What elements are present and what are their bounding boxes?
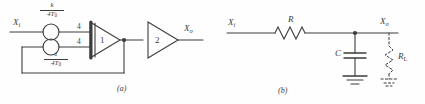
resistor-label: R: [288, 15, 294, 24]
panel-a-caption: (a): [117, 84, 126, 93]
panel-b-output-label: Xo: [380, 17, 389, 27]
summer-input-bottom-label: 4: [77, 37, 81, 46]
resistor-RL: [385, 46, 393, 74]
figure-root: Xi k 4T0 1 4T0 4 4 1 2 Xo (a): [0, 0, 425, 104]
resistor-R: [275, 27, 305, 39]
amplifier-2-triangle: [148, 22, 178, 58]
panel-b-input-label: Xi: [228, 18, 235, 28]
panel-a-input-label: Xi: [13, 18, 20, 28]
load-resistor-label: RL: [398, 52, 407, 62]
amplifier-1-gain-label: 1: [100, 35, 105, 45]
panel-a-output-label: Xo: [184, 24, 193, 34]
summer-input-top-label: 4: [77, 22, 81, 31]
panel-b-caption: (b): [278, 86, 287, 95]
gain-top-label: k 4T0: [40, 2, 64, 19]
gain-bottom-label: 1 4T0: [44, 51, 68, 68]
gain-circle-top: [43, 24, 59, 40]
amplifier-2-gain-label: 2: [155, 35, 160, 45]
capacitor-label: C: [335, 49, 341, 58]
panel-b-drawing: [213, 0, 425, 104]
panel-a-drawing: [0, 0, 213, 104]
